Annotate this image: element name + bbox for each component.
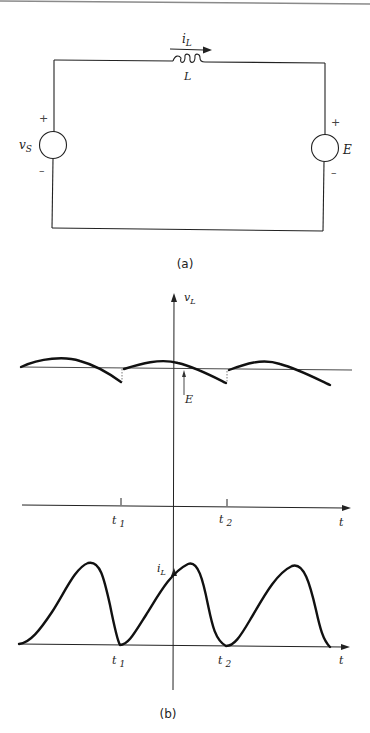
wire-top-right xyxy=(205,62,325,63)
il-waveform xyxy=(19,563,330,647)
wire-top-left xyxy=(54,60,173,61)
il-axis-label: iL xyxy=(157,562,166,577)
current-arrow-icon xyxy=(170,49,204,50)
il-t-axis-label: t xyxy=(339,654,344,667)
inductor-current-label: iL xyxy=(182,32,192,48)
wire-bottom xyxy=(52,228,323,231)
vs-minus-sign: – xyxy=(39,164,45,177)
e-label: E xyxy=(342,143,352,157)
inductor-icon xyxy=(173,54,205,62)
inductor-label: L xyxy=(183,70,191,83)
vl-t2-label: t2 xyxy=(219,513,232,528)
e-level-label: E xyxy=(184,393,193,406)
voltage-source-e-icon xyxy=(312,135,339,162)
il-t2-label: t2 xyxy=(218,654,231,669)
il-t1-label: t1 xyxy=(112,654,125,669)
vl-waveform xyxy=(21,358,330,385)
caption-b: (b) xyxy=(160,707,177,721)
vl-time-arrow-icon xyxy=(342,505,351,511)
current-arrowhead-icon xyxy=(203,47,212,54)
figure-canvas: iL L + vS – + E – (a) vL E t1 t2 t iL t1… xyxy=(0,0,370,733)
e-minus-sign: – xyxy=(331,166,337,179)
top-rule xyxy=(0,1,370,4)
vs-plus-sign: + xyxy=(39,112,48,125)
wire-right-lower xyxy=(323,162,324,231)
voltage-source-vs-icon xyxy=(40,132,67,159)
vertical-axis xyxy=(173,298,174,690)
vl-time-axis xyxy=(22,505,345,508)
e-plus-sign: + xyxy=(331,116,340,129)
vl-axis-arrow-icon xyxy=(171,293,177,302)
caption-a: (a) xyxy=(177,257,194,271)
vl-t-axis-label: t xyxy=(339,516,344,529)
e-level-line xyxy=(20,367,352,370)
il-time-arrow-icon xyxy=(341,644,350,650)
vs-label: vS xyxy=(19,138,32,154)
wire-left-lower xyxy=(52,159,53,228)
vl-axis-label: vL xyxy=(184,291,196,306)
il-time-axis xyxy=(18,644,344,647)
e-pointer-arrow-icon xyxy=(182,370,186,377)
vl-t1-label: t1 xyxy=(112,514,125,529)
